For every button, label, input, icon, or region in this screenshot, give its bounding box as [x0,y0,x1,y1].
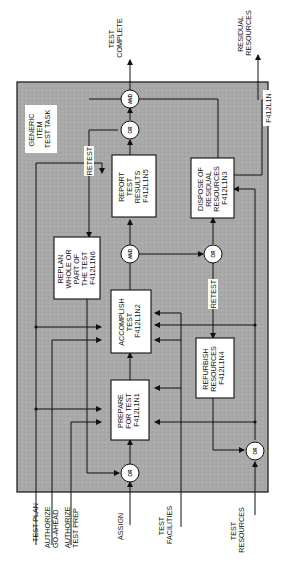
gate-or-refurbish: OR [204,245,222,263]
box-refurbish-resources: REFURBISH RESOURCES F412L1N4 [196,338,234,398]
svg-text:REPLAN WHOLE OR PA: REPLAN WHOLE OR PART OF THE TEST F412L1N… [56,247,97,288]
box-replan: REPLAN WHOLE OR PART OF THE TEST F412L1N… [54,237,100,299]
svg-text:TEST COMPLETE: TEST COMPLETE [107,18,124,58]
svg-text:AND: AND [128,248,133,259]
input-test-facilities: TEST FACILITIES [157,506,174,544]
input-assign: ASSIGN [116,513,125,540]
box-accomplish-test: ACCOMPLISH TEST F412L1N2 [111,290,151,353]
svg-text:AUTHORIZE TEST PREP: AUTHORIZE TEST PREP [63,504,80,548]
svg-text:OR: OR [253,447,258,455]
svg-text:AND: AND [128,93,133,104]
retest-label-right: RETEST [208,279,218,309]
retest-label-top: RETEST [84,146,94,176]
input-authorize-go-ahead: AUTHORIZE GO-AHEAD [43,504,60,548]
gate-and-complete: AND [121,90,139,108]
svg-text:TEST PLAN: TEST PLAN [31,503,40,542]
svg-text:DISPOSE OF RESIDUAL: DISPOSE OF RESIDUAL RESOURCES F412L1N3 [196,164,229,212]
svg-text:TEST FACILITIES: TEST FACILITIES [157,506,174,544]
svg-text:REPORT TEST RESULT: REPORT TEST RESULTS F412L1N5 [117,169,150,204]
title-label: GENERIC ITEM TEST TASK [25,105,57,153]
input-authorize-test-prep: AUTHORIZE TEST PREP [63,504,80,548]
output-test-complete: TEST COMPLETE [107,18,124,58]
svg-text:OR: OR [211,250,216,258]
svg-text:REFURBISH RESOURCES: REFURBISH RESOURCES F412L1N4 [201,344,226,392]
svg-text:RETEST: RETEST [85,146,94,175]
box-report-test-results: REPORT TEST RESULTS F412L1N5 [112,155,156,217]
frame-number: F412L1N [263,90,274,126]
svg-text:AUTHORIZE GO-AHEAD: AUTHORIZE GO-AHEAD [43,504,60,548]
gate-or-assign: OR [121,464,139,482]
functional-flow-diagram: PREPARE FOR TEST F412L1N1 ACCOMPLISH TES… [0,0,299,569]
input-test-plan: TEST PLAN [31,503,40,542]
svg-text:ASSIGN: ASSIGN [116,513,125,540]
box-dispose-residual-resources: DISPOSE OF RESIDUAL RESOURCES F412L1N3 [191,158,234,218]
input-test-resources: TEST RESOURCES [229,507,246,553]
gate-or-report: OR [121,121,139,139]
svg-text:OR: OR [128,469,133,477]
svg-text:RETEST: RETEST [209,279,218,308]
svg-text:OR: OR [128,126,133,134]
svg-text:PREPARE FOR TEST F: PREPARE FOR TEST F412L1N1 [116,391,141,428]
gate-or-resources: OR [246,442,264,460]
svg-text:F412L1N: F412L1N [264,93,273,123]
box-prepare-for-test: PREPARE FOR TEST F412L1N1 [111,380,149,440]
gate-and-accomplish: AND [121,245,139,263]
output-residual-resources: RESIDUAL RESOURCES [236,10,253,56]
svg-text:RESIDUAL RESOURCES: RESIDUAL RESOURCES [236,10,253,56]
svg-text:TEST RESOURCES: TEST RESOURCES [229,507,246,553]
